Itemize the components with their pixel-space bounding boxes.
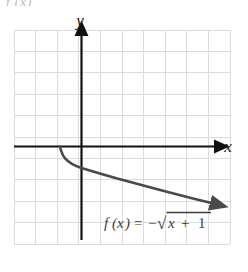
- radical-sign: √: [157, 214, 167, 233]
- radicand-variable: x: [167, 215, 175, 231]
- equation-minus-sign: −: [148, 215, 156, 231]
- radicand-constant: 1: [198, 215, 206, 231]
- coordinate-plane: x y f ( x ) = − √ x + 1: [0, 0, 248, 272]
- equation-variable: x: [116, 215, 124, 231]
- equation-equals: =: [134, 215, 142, 231]
- y-axis-label: y: [74, 11, 84, 30]
- function-curve: [60, 147, 213, 204]
- radicand-plus-sign: +: [181, 215, 189, 231]
- x-axis-label: x: [223, 137, 232, 156]
- equation-paren-close: ): [124, 215, 130, 232]
- function-graph-figure: f (x): [0, 0, 248, 272]
